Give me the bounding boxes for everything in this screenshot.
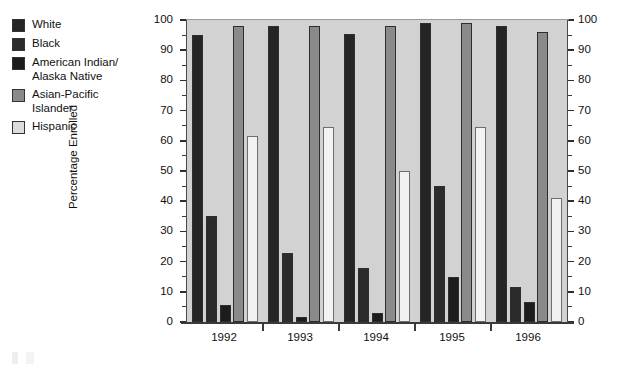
plot-area bbox=[186, 20, 568, 322]
legend-swatch-asian-pacific-islander bbox=[12, 89, 25, 102]
y-tick-label-left: 60 bbox=[145, 134, 173, 146]
y-tick-label-right: 0 bbox=[578, 315, 606, 327]
y-tick-right bbox=[568, 125, 572, 126]
y-tick-right bbox=[568, 110, 574, 112]
legend-swatch-american-indian-alaska-native bbox=[12, 57, 25, 70]
y-tick-right bbox=[568, 95, 572, 96]
y-tick-right bbox=[568, 200, 574, 202]
bar bbox=[496, 26, 507, 322]
y-tick-label-left: 100 bbox=[145, 13, 173, 25]
bar-group bbox=[496, 20, 562, 322]
bar-group bbox=[420, 20, 486, 322]
y-tick-right bbox=[568, 216, 572, 217]
y-tick-right bbox=[568, 291, 574, 293]
bar bbox=[420, 23, 431, 322]
y-tick-right bbox=[568, 276, 572, 277]
y-tick-right bbox=[568, 261, 574, 263]
bar bbox=[510, 287, 521, 322]
y-tick-right bbox=[568, 155, 572, 156]
bar bbox=[220, 305, 231, 322]
x-tick-label: 1995 bbox=[417, 331, 487, 343]
legend-swatch-black bbox=[12, 38, 25, 51]
y-tick-right bbox=[568, 186, 572, 187]
y-tick-right bbox=[568, 231, 574, 233]
bar bbox=[434, 186, 445, 322]
bar bbox=[192, 35, 203, 322]
y-tick-right bbox=[568, 140, 574, 142]
y-tick-label-left: 0 bbox=[145, 315, 173, 327]
bar bbox=[233, 26, 244, 322]
y-tick-label-left: 90 bbox=[145, 43, 173, 55]
legend-item-black: Black bbox=[12, 37, 142, 51]
y-tick-label-left: 40 bbox=[145, 194, 173, 206]
bar bbox=[551, 198, 562, 322]
y-tick-label-right: 90 bbox=[578, 43, 606, 55]
y-tick-label-left: 50 bbox=[145, 164, 173, 176]
bar bbox=[344, 34, 355, 322]
y-tick-label-right: 80 bbox=[578, 73, 606, 85]
y-tick-label-right: 30 bbox=[578, 224, 606, 236]
legend-swatch-white bbox=[12, 19, 25, 32]
bar bbox=[268, 26, 279, 322]
x-axis-line bbox=[181, 322, 574, 324]
y-tick-right bbox=[568, 65, 572, 66]
bar bbox=[385, 26, 396, 322]
x-axis-separator-tick bbox=[414, 322, 416, 331]
bar-group bbox=[192, 20, 258, 322]
y-tick-label-right: 100 bbox=[578, 13, 606, 25]
legend-label-asian-pacific-islander: Asian-Pacific Islander bbox=[32, 88, 98, 115]
y-tick-label-left: 80 bbox=[145, 73, 173, 85]
bar bbox=[537, 32, 548, 322]
bar bbox=[461, 23, 472, 322]
bar bbox=[475, 127, 486, 322]
y-tick-right bbox=[568, 35, 572, 36]
bar bbox=[282, 253, 293, 322]
x-axis-separator-tick bbox=[262, 322, 264, 331]
y-tick-right bbox=[568, 246, 572, 247]
legend-item-white: White bbox=[12, 18, 142, 32]
x-tick-label: 1993 bbox=[265, 331, 335, 343]
y-axis-title: Percentage Enrolled bbox=[67, 72, 79, 242]
y-tick-right bbox=[568, 170, 574, 172]
x-tick-label: 1992 bbox=[189, 331, 259, 343]
x-axis-separator-tick bbox=[490, 322, 492, 331]
y-tick-label-left: 20 bbox=[145, 255, 173, 267]
legend-swatch-hispanic bbox=[12, 121, 25, 134]
x-tick-label: 1994 bbox=[341, 331, 411, 343]
y-tick-right bbox=[568, 306, 572, 307]
bar bbox=[524, 302, 535, 322]
y-tick-label-left: 10 bbox=[145, 285, 173, 297]
bar bbox=[448, 277, 459, 322]
y-tick-label-right: 70 bbox=[578, 104, 606, 116]
bar bbox=[323, 127, 334, 322]
bar bbox=[309, 26, 320, 322]
y-tick-label-right: 20 bbox=[578, 255, 606, 267]
x-tick-label: 1996 bbox=[493, 331, 563, 343]
bar bbox=[399, 171, 410, 322]
bar bbox=[247, 136, 258, 322]
y-tick-label-left: 30 bbox=[145, 224, 173, 236]
y-tick-label-right: 50 bbox=[578, 164, 606, 176]
y-tick-label-left: 70 bbox=[145, 104, 173, 116]
y-tick-right bbox=[568, 49, 574, 51]
y-tick-right bbox=[568, 80, 574, 82]
bar-group bbox=[268, 20, 334, 322]
legend-label-white: White bbox=[32, 18, 61, 32]
legend-label-black: Black bbox=[32, 37, 60, 51]
y-tick-label-right: 10 bbox=[578, 285, 606, 297]
bar bbox=[206, 216, 217, 322]
y-tick-label-right: 60 bbox=[578, 134, 606, 146]
bar bbox=[358, 268, 369, 322]
y-tick-label-right: 40 bbox=[578, 194, 606, 206]
bar-group bbox=[344, 20, 410, 322]
x-axis-separator-tick bbox=[338, 322, 340, 331]
page-artifact bbox=[12, 352, 38, 364]
bar bbox=[372, 313, 383, 322]
